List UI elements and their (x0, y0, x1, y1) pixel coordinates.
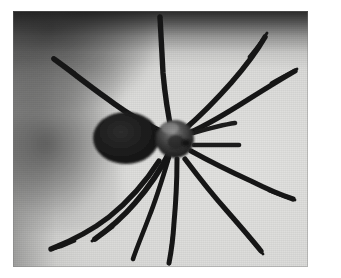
spider-leg-lower-right-inner (191, 151, 293, 199)
spider-leg-upper-left-tip (53, 58, 75, 73)
spider-photograph (13, 11, 308, 267)
spider-leg-upper-right-inner (189, 71, 295, 133)
spider-eye-cluster (182, 140, 190, 147)
spider-leg-upper-left-inner (160, 17, 172, 133)
spider-leg-upper-right-inner-tip (271, 69, 297, 83)
page-root (0, 0, 341, 278)
spider-cephalothorax-highlight (161, 123, 179, 134)
spider-leg-lower-right-tip (245, 233, 263, 254)
spider-carapace-marking (168, 135, 185, 149)
spider-body (93, 112, 194, 164)
spider-abdomen (93, 112, 159, 164)
spider (13, 11, 308, 267)
spider-leg-upper-right-tip (249, 33, 267, 57)
